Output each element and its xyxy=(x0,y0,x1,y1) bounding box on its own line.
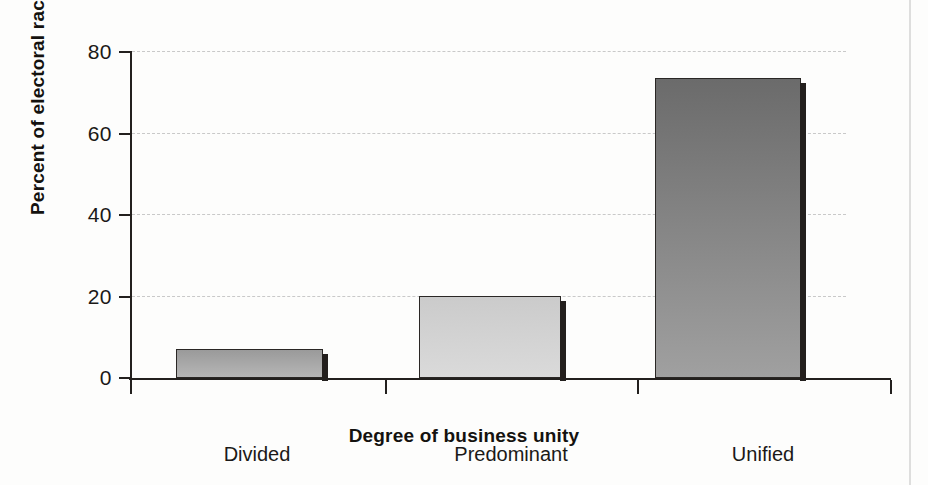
bar-divided-shadow xyxy=(322,354,328,381)
bar-divided xyxy=(176,349,323,378)
gridline-80 xyxy=(132,51,846,52)
scan-page-edge xyxy=(909,0,911,485)
y-tick-20: 20 xyxy=(119,296,130,298)
bar-unified-shadow xyxy=(800,83,806,381)
x-tick-pre-uni xyxy=(637,380,639,394)
bar-predominant-shadow xyxy=(560,301,566,381)
chart-figure: 80 60 40 20 0 Divided Predominant Unifie… xyxy=(0,0,928,485)
bar-unified-face xyxy=(656,79,800,377)
y-tick-0: 0 xyxy=(119,377,130,379)
bar-predominant-face xyxy=(420,297,560,377)
y-tick-label-20: 20 xyxy=(88,285,112,309)
x-tick-start xyxy=(130,380,132,394)
y-axis-line xyxy=(130,51,132,378)
y-tick-label-60: 60 xyxy=(88,122,112,146)
y-tick-label-40: 40 xyxy=(88,203,112,227)
x-axis-title: Degree of business unity xyxy=(0,425,928,447)
x-tick-div-pre xyxy=(385,380,387,394)
bar-unified xyxy=(655,78,801,378)
y-tick-label-0: 0 xyxy=(100,366,112,390)
y-tick-60: 60 xyxy=(119,133,130,135)
y-axis-title: Percent of electoral races xyxy=(27,0,49,215)
y-tick-label-80: 80 xyxy=(88,40,112,64)
bar-predominant xyxy=(419,296,561,378)
x-tick-end xyxy=(890,380,892,394)
bar-divided-face xyxy=(177,350,322,377)
y-tick-40: 40 xyxy=(119,214,130,216)
x-axis-line xyxy=(129,378,891,380)
y-tick-80: 80 xyxy=(119,51,130,53)
plot-area: 80 60 40 20 0 Divided Predominant Unifie… xyxy=(130,51,890,378)
